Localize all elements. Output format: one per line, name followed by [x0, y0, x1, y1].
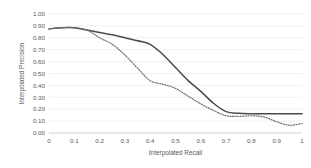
- y-tick-label: 0.30: [33, 94, 46, 101]
- x-tick-label: 1: [300, 137, 304, 144]
- x-tick-label: 0.4: [146, 137, 155, 144]
- x-tick-label: 0.7: [222, 137, 231, 144]
- x-tick-label: 0.9: [272, 137, 281, 144]
- y-tick-label: 0.70: [33, 46, 46, 53]
- precision-recall-chart: 0.000.100.200.300.400.500.600.700.800.90…: [0, 0, 311, 168]
- y-tick-label: 0.90: [33, 22, 46, 29]
- series-line-dotted-curve: [49, 27, 302, 125]
- data-series-group: [49, 27, 302, 125]
- x-tick-label: 0.2: [95, 137, 104, 144]
- x-tick-label: 0.8: [247, 137, 256, 144]
- series-line-solid-curve: [49, 27, 302, 113]
- x-tick-label: 0.5: [171, 137, 180, 144]
- gridlines-group: [49, 14, 302, 133]
- x-tick-label: 0.6: [196, 137, 205, 144]
- chart-container: 0.000.100.200.300.400.500.600.700.800.90…: [0, 0, 311, 168]
- y-tick-label: 0.40: [33, 82, 46, 89]
- x-tick-label: 0: [47, 137, 51, 144]
- y-tick-label: 0.00: [33, 129, 46, 136]
- y-tick-label: 0.80: [33, 34, 46, 41]
- y-tick-label: 0.60: [33, 58, 46, 65]
- x-tick-label: 0.3: [121, 137, 130, 144]
- y-tick-label: 1.00: [33, 10, 46, 17]
- x-axis-tick-labels: 00.10.20.30.40.50.60.70.80.91: [47, 137, 304, 144]
- y-axis-tick-labels: 0.000.100.200.300.400.500.600.700.800.90…: [33, 10, 46, 136]
- y-tick-label: 0.20: [33, 105, 46, 112]
- y-tick-label: 0.50: [33, 70, 46, 77]
- y-axis-title: Interpolated Precision: [18, 42, 26, 104]
- x-axis-title: Interpolated Recall: [149, 149, 202, 157]
- x-tick-label: 0.1: [70, 137, 79, 144]
- y-tick-label: 0.10: [33, 117, 46, 124]
